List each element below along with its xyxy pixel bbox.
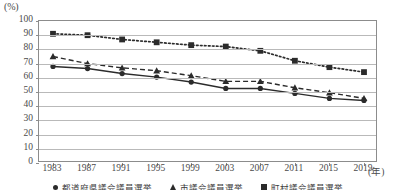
x-axis-unit-label: (年)	[368, 164, 384, 178]
series-line-circle	[53, 66, 364, 100]
legend-item: 町村議会議員選挙	[261, 181, 343, 190]
y-tick-label: 60	[0, 72, 33, 82]
data-point-circle	[120, 71, 125, 76]
series-line-square	[53, 34, 364, 72]
y-tick-mark	[36, 120, 39, 121]
y-axis-unit-label: (%)	[4, 1, 18, 12]
voter-turnout-line-chart: (%) 1009080706050403020100 1983198719911…	[0, 0, 395, 190]
gridline	[39, 120, 376, 121]
y-tick-label: 50	[0, 86, 33, 96]
y-tick-mark	[36, 149, 39, 150]
data-point-triangle	[361, 95, 368, 101]
data-point-triangle	[257, 78, 264, 84]
gridline	[39, 35, 376, 36]
gridline	[39, 92, 376, 93]
gridline	[39, 78, 376, 79]
data-point-circle	[85, 66, 90, 71]
data-point-triangle	[50, 53, 57, 59]
gridline	[39, 149, 376, 150]
y-tick-mark	[36, 64, 39, 65]
y-tick-mark	[36, 49, 39, 50]
y-tick-mark	[36, 21, 39, 22]
gridline	[39, 49, 376, 50]
triangle-marker	[170, 184, 176, 190]
y-tick-label: 10	[0, 143, 33, 153]
y-tick-mark	[36, 78, 39, 79]
data-point-circle	[50, 64, 55, 69]
gridline	[39, 64, 376, 65]
y-tick-mark	[36, 35, 39, 36]
y-tick-label: 90	[0, 29, 33, 39]
data-point-circle	[258, 86, 263, 91]
y-tick-label: 30	[0, 114, 33, 124]
y-tick-label: 80	[0, 43, 33, 53]
y-tick-label: 20	[0, 129, 33, 139]
plot-area	[38, 20, 377, 162]
y-tick-label: 0	[0, 157, 33, 167]
legend-label: 市議会議員選挙	[180, 181, 243, 190]
data-point-square	[119, 37, 125, 43]
data-point-circle	[223, 86, 228, 91]
y-tick-label: 100	[0, 15, 33, 25]
chart-legend: 都道府県議会議員選挙市議会議員選挙町村議会議員選挙	[0, 181, 395, 190]
legend-label: 都道府県議会議員選挙	[62, 181, 152, 190]
y-tick-mark	[36, 106, 39, 107]
y-tick-mark	[36, 135, 39, 136]
square-marker	[261, 184, 267, 190]
y-tick-label: 40	[0, 100, 33, 110]
data-point-square	[188, 42, 194, 48]
circle-marker	[53, 185, 58, 190]
data-point-square	[154, 39, 160, 45]
data-point-circle	[327, 96, 332, 101]
gridline	[39, 106, 376, 107]
legend-label: 町村議会議員選挙	[271, 181, 343, 190]
data-point-square	[327, 64, 333, 70]
y-tick-mark	[36, 92, 39, 93]
data-point-circle	[189, 79, 194, 84]
legend-item: 市議会議員選挙	[170, 181, 243, 190]
data-point-square	[361, 69, 367, 75]
y-tick-label: 70	[0, 58, 33, 68]
legend-item: 都道府県議会議員選挙	[53, 181, 152, 190]
gridline	[39, 135, 376, 136]
